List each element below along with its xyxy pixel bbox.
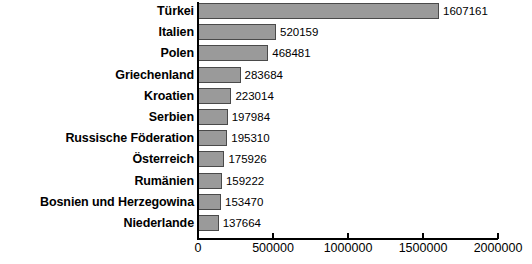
bar: [198, 67, 241, 83]
bar-row: Rumänien 159222: [0, 171, 532, 192]
category-label: Italien: [159, 22, 194, 43]
bar-value-label: 137664: [223, 213, 261, 234]
x-axis-tick: [272, 233, 274, 239]
bar-value-label: 1607161: [443, 1, 488, 22]
bar-value-label: 159222: [226, 171, 264, 192]
category-label: Niederlande: [124, 213, 194, 234]
bar-row: Türkei 1607161: [0, 1, 532, 22]
x-axis-tick: [347, 233, 349, 239]
x-axis-tick-label: 1500000: [399, 241, 448, 255]
bar: [198, 109, 228, 125]
bar: [198, 88, 231, 104]
x-axis-tick: [197, 233, 199, 239]
bar: [198, 3, 439, 19]
category-label: Türkei: [157, 1, 194, 22]
bar-row: Niederlande 137664: [0, 213, 532, 234]
bar-value-label: 175926: [228, 149, 266, 170]
bar-value-label: 283684: [245, 65, 283, 86]
x-axis-tick-label: 0: [195, 241, 202, 255]
bar: [198, 173, 222, 189]
x-axis-tick: [422, 233, 424, 239]
category-label: Griechenland: [115, 65, 194, 86]
category-label: Polen: [160, 43, 194, 64]
bar-row: Österreich 175926: [0, 149, 532, 170]
bar: [198, 130, 227, 146]
plot-area: Türkei 1607161 Italien 520159 Polen 4684…: [0, 0, 532, 264]
bar: [198, 151, 224, 167]
bar-row: Bosnien und Herzegowina 153470: [0, 192, 532, 213]
bar: [198, 45, 268, 61]
x-axis-tick: [497, 233, 499, 239]
category-label: Rumänien: [134, 171, 194, 192]
bar: [198, 24, 276, 40]
category-label: Bosnien und Herzegowina: [40, 192, 194, 213]
bar-row: Kroatien 223014: [0, 86, 532, 107]
bar-chart: Türkei 1607161 Italien 520159 Polen 4684…: [0, 0, 532, 264]
bar-row: Russische Föderation 195310: [0, 128, 532, 149]
x-axis-tick-label: 1000000: [324, 241, 373, 255]
bar-value-label: 468481: [272, 43, 310, 64]
x-axis-tick-label: 500000: [252, 241, 294, 255]
bar-value-label: 197984: [232, 107, 270, 128]
category-label: Serbien: [149, 107, 194, 128]
bar-row: Serbien 197984: [0, 107, 532, 128]
bar: [198, 215, 219, 231]
bar-value-label: 195310: [231, 128, 269, 149]
category-label: Kroatien: [144, 86, 194, 107]
bar-row: Italien 520159: [0, 22, 532, 43]
bar-row: Polen 468481: [0, 43, 532, 64]
category-label: Russische Föderation: [65, 128, 194, 149]
category-label: Österreich: [132, 149, 194, 170]
bar-value-label: 520159: [280, 22, 318, 43]
x-axis-tick-label: 2000000: [474, 241, 523, 255]
bar-value-label: 223014: [235, 86, 273, 107]
bar: [198, 194, 221, 210]
bar-value-label: 153470: [225, 192, 263, 213]
bar-row: Griechenland 283684: [0, 65, 532, 86]
y-axis-line: [197, 2, 199, 239]
